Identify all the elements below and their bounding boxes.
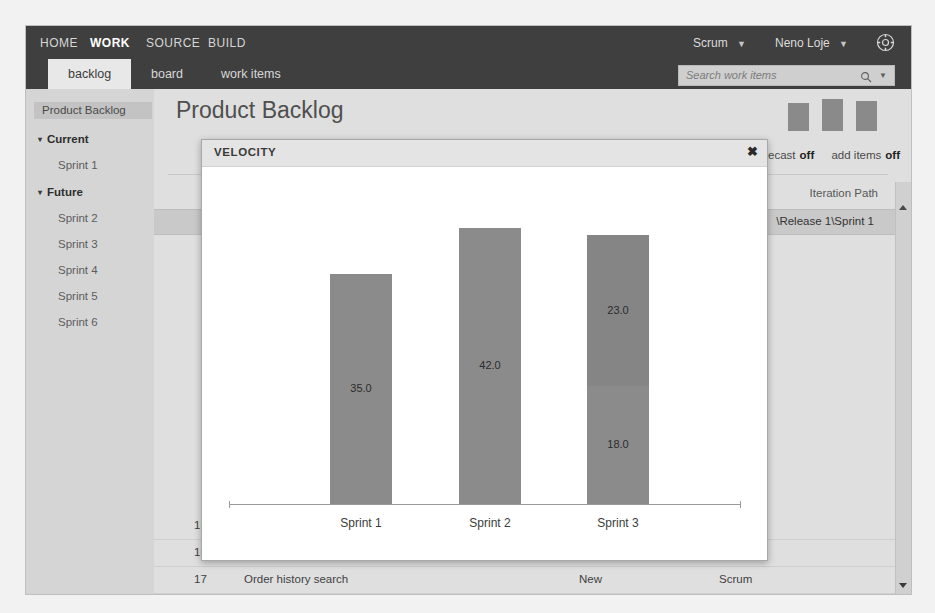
sidebar-group-current[interactable]: ▾Current xyxy=(38,133,89,145)
thumbnail-bar xyxy=(822,99,843,131)
screenshot-root: HOME WORK SOURCE BUILD Scrum ▼ Neno Loje… xyxy=(0,0,935,613)
sidebar-item-sprint-6[interactable]: Sprint 6 xyxy=(58,316,98,328)
velocity-bar-chart: 35.0 Sprint 1 42.0 Sprint 2 23.0 18.0 Sp… xyxy=(202,167,767,559)
tab-work-items[interactable]: work items xyxy=(201,59,301,89)
bar-segment[interactable]: 35.0 xyxy=(330,274,392,504)
forecast-toggle-state: off xyxy=(800,149,815,161)
search-input[interactable]: Search work items xyxy=(686,69,776,81)
x-axis-line xyxy=(229,504,741,505)
velocity-dialog: VELOCITY ✖ 35.0 Sprint 1 42.0 Sprint 2 xyxy=(201,139,768,561)
bar-segment[interactable]: 18.0 xyxy=(587,386,649,504)
process-selector[interactable]: Scrum ▼ xyxy=(693,36,746,50)
tab-board[interactable]: board xyxy=(131,59,203,89)
table-row[interactable]: 17 Order history search New Scrum xyxy=(154,566,896,594)
axis-tick xyxy=(740,501,741,508)
cell-title: Order history search xyxy=(244,573,348,585)
add-items-toggle-state: off xyxy=(885,149,900,161)
close-icon[interactable]: ✖ xyxy=(747,144,758,160)
dialog-title-bar: VELOCITY ✖ xyxy=(202,140,767,167)
x-axis-tick-label: Sprint 2 xyxy=(445,516,535,530)
bar-segment[interactable]: 42.0 xyxy=(459,228,521,504)
user-menu-label: Neno Loje xyxy=(775,36,830,50)
search-box[interactable]: Search work items ▼ xyxy=(678,65,895,86)
x-axis-tick-label: Sprint 1 xyxy=(316,516,406,530)
sidebar-item-sprint-1[interactable]: Sprint 1 xyxy=(58,159,98,171)
sidebar-item-sprint-5[interactable]: Sprint 5 xyxy=(58,290,98,302)
sidebar-group-current-label: Current xyxy=(47,133,89,145)
page-title: Product Backlog xyxy=(176,97,343,124)
add-items-toggle[interactable]: add itemsoff xyxy=(831,149,900,161)
thumbnail-bar xyxy=(788,103,809,131)
x-axis-tick-label: Sprint 3 xyxy=(573,516,663,530)
nav-item-source[interactable]: SOURCE xyxy=(146,36,200,50)
bar-value-label: 42.0 xyxy=(459,359,521,371)
bar-value-label: 23.0 xyxy=(587,304,649,316)
tab-backlog[interactable]: backlog xyxy=(48,59,131,89)
web-page: HOME WORK SOURCE BUILD Scrum ▼ Neno Loje… xyxy=(25,25,912,595)
thumbnail-bar xyxy=(856,101,877,131)
gear-icon[interactable] xyxy=(876,33,895,52)
scroll-down-arrow-icon[interactable] xyxy=(899,583,907,588)
chevron-down-icon[interactable]: ▼ xyxy=(879,71,887,80)
cell-state: New xyxy=(579,573,602,585)
triangle-down-icon: ▾ xyxy=(38,135,42,144)
sidebar-item-sprint-4[interactable]: Sprint 4 xyxy=(58,264,98,276)
grid-vertical-scrollbar[interactable] xyxy=(895,182,911,594)
add-items-toggle-label: add items xyxy=(831,149,881,161)
bar-group-sprint-2[interactable]: 42.0 Sprint 2 xyxy=(459,228,521,504)
bar-group-sprint-1[interactable]: 35.0 Sprint 1 xyxy=(330,274,392,504)
top-navigation-bar: HOME WORK SOURCE BUILD Scrum ▼ Neno Loje… xyxy=(26,26,911,59)
bar-segment[interactable]: 23.0 xyxy=(587,235,649,386)
sidebar-item-sprint-2[interactable]: Sprint 2 xyxy=(58,212,98,224)
nav-item-build[interactable]: BUILD xyxy=(208,36,246,50)
bar-value-label: 35.0 xyxy=(330,382,392,394)
bar-value-label: 18.0 xyxy=(587,438,649,450)
chevron-down-icon: ▼ xyxy=(839,39,848,49)
user-menu[interactable]: Neno Loje ▼ xyxy=(775,36,848,50)
cell-id: 17 xyxy=(194,573,207,585)
cell-iteration-path: \Release 1\Sprint 1 xyxy=(776,215,874,227)
cell-type: Scrum xyxy=(719,573,752,585)
sidebar-group-future-label: Future xyxy=(47,186,83,198)
dialog-title: VELOCITY xyxy=(214,146,276,158)
process-selector-label: Scrum xyxy=(693,36,728,50)
column-header-iteration-path[interactable]: Iteration Path xyxy=(810,187,878,199)
sidebar-group-future[interactable]: ▾Future xyxy=(38,186,83,198)
nav-item-work[interactable]: WORK xyxy=(90,36,130,50)
triangle-down-icon: ▾ xyxy=(38,188,42,197)
bar-group-sprint-3[interactable]: 23.0 18.0 Sprint 3 xyxy=(587,235,649,504)
nav-item-home[interactable]: HOME xyxy=(40,36,78,50)
chevron-down-icon: ▼ xyxy=(737,39,746,49)
search-icon[interactable] xyxy=(860,69,872,81)
sidebar: Product Backlog ▾Current Sprint 1 ▾Futur… xyxy=(26,89,154,594)
axis-tick xyxy=(229,501,230,508)
velocity-thumbnail-chart[interactable] xyxy=(770,89,900,149)
scroll-up-arrow-icon[interactable] xyxy=(899,205,907,210)
sidebar-item-product-backlog[interactable]: Product Backlog xyxy=(34,102,152,119)
sidebar-item-sprint-3[interactable]: Sprint 3 xyxy=(58,238,98,250)
